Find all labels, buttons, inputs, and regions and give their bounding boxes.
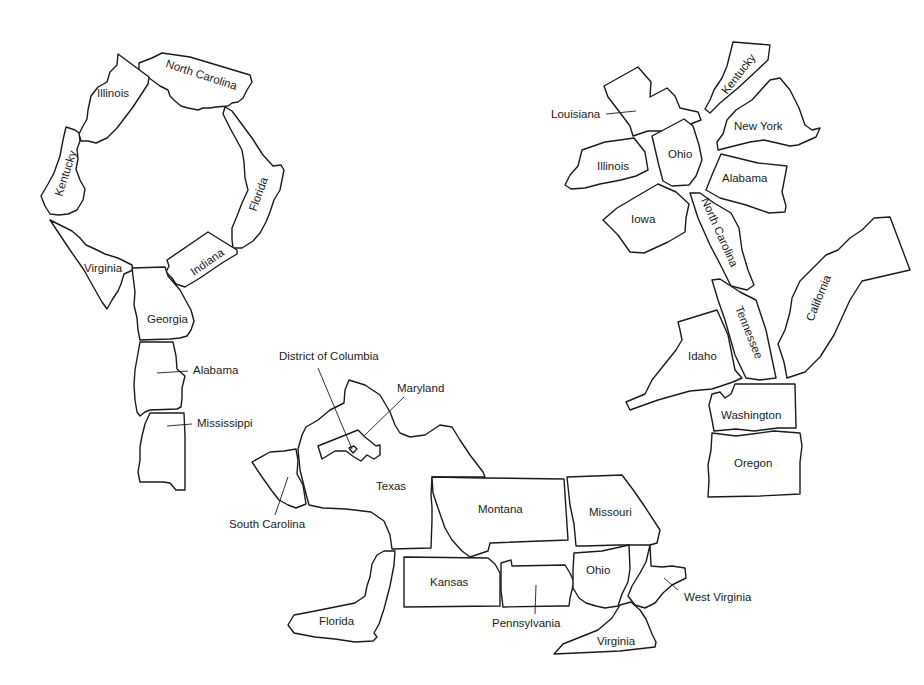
label-oregon: Oregon (734, 457, 772, 469)
label-new-york: New York (734, 120, 783, 132)
state-florida-2 (288, 551, 395, 642)
label-louisiana: Louisiana (551, 108, 601, 120)
label-maryland: Maryland (397, 382, 444, 394)
state-idaho (626, 310, 742, 410)
state-puzzle-diagram: North Carolina Illinois Kentucky Florida… (0, 0, 924, 685)
label-alabama-2: Alabama (722, 172, 768, 184)
label-illinois: Illinois (97, 87, 129, 99)
label-washington: Washington (721, 409, 781, 421)
label-texas: Texas (376, 480, 406, 492)
label-ohio-2: Ohio (586, 564, 610, 576)
label-district-of-columbia: District of Columbia (279, 350, 379, 362)
label-illinois-2: Illinois (597, 160, 629, 172)
state-montana (432, 477, 568, 557)
state-west-virginia (628, 545, 686, 608)
label-georgia: Georgia (147, 313, 189, 325)
state-florida (223, 107, 284, 248)
label-alabama: Alabama (193, 364, 239, 376)
label-ohio-3: Ohio (668, 148, 692, 160)
state-alabama (134, 342, 185, 416)
label-iowa: Iowa (631, 213, 656, 225)
label-idaho: Idaho (688, 350, 717, 362)
label-missouri: Missouri (589, 506, 632, 518)
label-montana: Montana (478, 503, 523, 515)
label-mississippi: Mississippi (197, 417, 253, 429)
flower-figure: Louisiana Kentucky New York Illinois Ohi… (551, 42, 910, 497)
state-california (778, 217, 910, 378)
state-pennsylvania (501, 560, 574, 607)
label-west-virginia: West Virginia (684, 591, 752, 603)
state-ohio (573, 545, 630, 608)
ring-figure: North Carolina Illinois Kentucky Florida… (41, 53, 284, 490)
label-virginia-2: Virginia (597, 635, 636, 647)
label-south-carolina: South Carolina (229, 518, 306, 530)
label-virginia: Virginia (84, 262, 123, 274)
label-kansas: Kansas (430, 576, 469, 588)
label-florida-2: Florida (319, 615, 355, 627)
state-washington (709, 384, 796, 431)
state-mississippi (138, 413, 185, 490)
state-south-carolina (252, 449, 306, 508)
label-pennsylvania: Pennsylvania (492, 617, 561, 629)
